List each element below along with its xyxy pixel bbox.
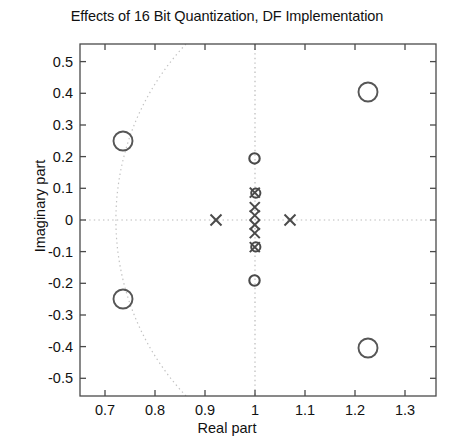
y-tick-label: -0.3 (48, 307, 73, 323)
y-tick-label: -0.2 (48, 275, 73, 291)
y-axis-label: Imaginary part (32, 126, 48, 286)
pole-marker (211, 215, 222, 226)
plot-canvas: 0.7 0.8 0.9 1 1.1 1.2 1.3 0.5 0.4 0.3 0.… (0, 0, 454, 447)
pole-marker (250, 228, 260, 238)
x-tick-label: 0.7 (95, 402, 115, 418)
y-tick-label: 0 (65, 212, 73, 228)
x-tick-label: 1 (251, 402, 259, 418)
x-tick-label: 1.2 (345, 402, 365, 418)
y-tick-label: 0.4 (53, 85, 73, 101)
y-axis-tick-labels: 0.5 0.4 0.3 0.2 0.1 0 -0.1 -0.2 -0.3 -0.… (48, 54, 73, 387)
x-tick-label: 1.3 (395, 402, 415, 418)
zero-marker (359, 339, 378, 358)
y-tick-label: 0.5 (53, 54, 73, 70)
pole-zero-plot-figure: Effects of 16 Bit Quantization, DF Imple… (0, 0, 454, 447)
x-tick-label: 0.8 (145, 402, 165, 418)
x-tick-label: 1.1 (295, 402, 315, 418)
y-tick-label: -0.5 (48, 370, 73, 386)
y-tick-label: 0.3 (53, 117, 73, 133)
zero-marker (114, 132, 133, 151)
y-tick-label: 0.2 (53, 149, 73, 165)
x-axis-label: Real part (0, 420, 454, 436)
zero-marker (359, 83, 378, 102)
x-tick-label: 0.9 (195, 402, 215, 418)
y-tick-label: -0.1 (48, 244, 73, 260)
y-tick-label: 0.1 (53, 180, 73, 196)
zero-marker (114, 290, 133, 309)
pole-marker (285, 215, 296, 226)
y-tick-label: -0.4 (48, 339, 73, 355)
x-axis-tick-labels: 0.7 0.8 0.9 1 1.1 1.2 1.3 (95, 402, 415, 418)
